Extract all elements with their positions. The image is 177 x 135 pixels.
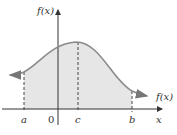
point-label-c: c bbox=[75, 114, 81, 125]
point-label-b: b bbox=[129, 114, 135, 125]
function-curve-left-arrow bbox=[10, 72, 24, 75]
y-axis-label: f(x) bbox=[36, 5, 54, 16]
point-label-a: a bbox=[21, 114, 27, 125]
origin-label: 0 bbox=[48, 114, 54, 125]
function-diagram: f(x) f(x) x 0 a c b bbox=[0, 0, 177, 135]
x-axis-label: x bbox=[156, 114, 162, 125]
curve-label: f(x) bbox=[155, 91, 173, 102]
